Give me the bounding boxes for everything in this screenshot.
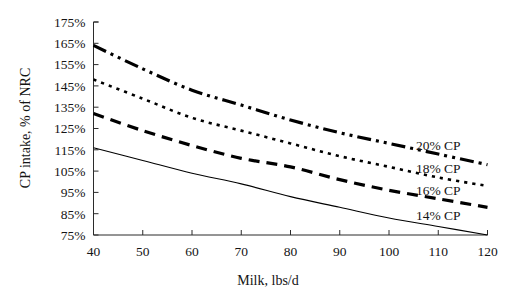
y-axis-tick-label: 105% (54, 164, 86, 179)
x-axis-tick-label: 80 (284, 244, 298, 259)
x-axis-tick-label: 60 (185, 244, 199, 259)
y-axis-tick-label: 115% (55, 143, 86, 158)
x-axis-tick-label: 70 (235, 244, 249, 259)
chart-container: 75%85%95%105%115%125%135%145%155%165%175… (0, 0, 518, 300)
series-label-20-cp: 20% CP (416, 138, 461, 153)
x-axis-tick-label: 40 (87, 244, 101, 259)
y-axis-tick-label: 155% (54, 57, 86, 72)
y-axis-tick-label: 85% (61, 207, 86, 222)
x-axis-tick-label: 120 (477, 244, 498, 259)
series-label-16-cp: 16% CP (416, 183, 461, 198)
y-axis-tick-label: 175% (54, 15, 86, 30)
x-axis-tick-label: 90 (333, 244, 347, 259)
series-label-14-cp: 14% CP (416, 208, 461, 223)
y-axis-tick-label: 145% (54, 79, 86, 94)
y-axis-tick-label: 95% (61, 185, 86, 200)
x-axis-tick-labels: 405060708090100110120 (87, 244, 498, 259)
x-axis-tick-label: 100 (379, 244, 400, 259)
x-axis-title: Milk, lbs/d (237, 273, 298, 288)
y-axis-tick-label: 135% (54, 100, 86, 115)
y-axis-tick-label: 75% (61, 228, 86, 243)
x-axis-tick-label: 110 (428, 244, 448, 259)
series-label-18-cp: 18% CP (416, 161, 461, 176)
x-axis-tick-label: 50 (136, 244, 150, 259)
y-axis-title: CP intake, % of NRC (18, 68, 33, 188)
cp-intake-line-chart: 75%85%95%105%115%125%135%145%155%165%175… (0, 0, 518, 300)
y-axis-tick-label: 165% (54, 36, 86, 51)
y-axis-tick-label: 125% (54, 121, 86, 136)
